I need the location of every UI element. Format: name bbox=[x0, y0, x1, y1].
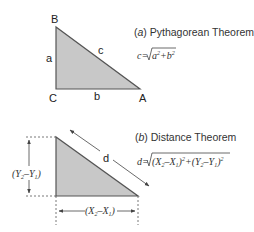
svg-text:d=: d= bbox=[137, 156, 149, 167]
theorems-diagram: B C A a b c (a) Pythagorean Theorem c= a… bbox=[0, 0, 254, 232]
pythagorean-formula: c= a2+b2 bbox=[137, 48, 176, 61]
svg-text:c=: c= bbox=[137, 50, 148, 61]
pythagorean-panel: B C A a b c (a) Pythagorean Theorem c= a… bbox=[46, 13, 254, 104]
vertical-delta-label: (Y2–Y1) bbox=[12, 168, 41, 180]
distance-caption: (b) Distance Theorem bbox=[135, 131, 237, 143]
side-a-label: a bbox=[46, 52, 53, 64]
vertex-b-label: B bbox=[51, 13, 58, 25]
distance-panel: (Y2–Y1) (X2–X1) d (b) Distance Theorem d… bbox=[12, 130, 237, 225]
right-triangle-abc bbox=[56, 27, 140, 89]
svg-text:(X2–X1)2+(Y2–Y1)2: (X2–X1)2+(Y2–Y1)2 bbox=[152, 156, 223, 168]
distance-triangle bbox=[56, 137, 138, 196]
distance-formula: d= (X2–X1)2+(Y2–Y1)2 bbox=[137, 153, 230, 168]
side-c-label: c bbox=[98, 44, 104, 56]
horizontal-delta-label: (X2–X1) bbox=[85, 205, 116, 217]
distance-d-label: d bbox=[103, 152, 109, 164]
vertex-c-label: C bbox=[49, 92, 57, 104]
vertex-a-label: A bbox=[139, 92, 147, 104]
pythagorean-caption: (a) Pythagorean Theorem bbox=[134, 26, 254, 38]
hyp-arrow-top bbox=[70, 130, 100, 151]
side-b-label: b bbox=[94, 90, 100, 102]
svg-text:a2+b2: a2+b2 bbox=[152, 50, 175, 61]
